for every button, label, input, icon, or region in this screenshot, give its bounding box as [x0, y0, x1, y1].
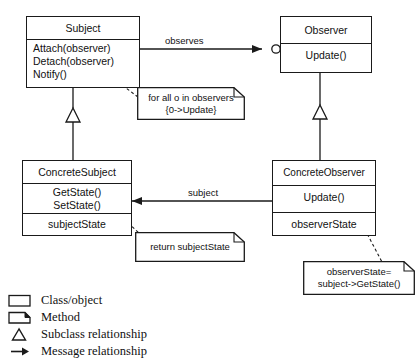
observer-generalization-triangle [313, 105, 327, 119]
operation: SetState() [27, 199, 127, 212]
class-concrete-observer-attributes: observerState [273, 212, 375, 237]
edge-label-subject: subject [186, 187, 220, 198]
attribute: subjectState [27, 218, 127, 231]
class-concrete-observer-operations: Update() [273, 185, 375, 212]
operation: Update() [277, 191, 371, 204]
operation: Update() [285, 49, 367, 62]
message-arrow-icon [8, 344, 34, 359]
note-line: return subjectState [150, 241, 230, 253]
class-concrete-subject-operations: GetState() SetState() [23, 183, 131, 213]
legend-label: Class/object [41, 293, 102, 308]
uml-diagram-canvas: Subject Attach(observer) Detach(observer… [0, 0, 420, 362]
class-subject-operations: Attach(observer) Detach(observer) Notify… [27, 39, 139, 83]
subclass-triangle-icon [8, 327, 34, 342]
note-line: for all o in observers [148, 92, 234, 104]
class-observer[interactable]: Observer Update() [280, 16, 372, 73]
attribute: observerState [277, 218, 371, 231]
class-observer-operations: Update() [281, 43, 371, 64]
legend-item-method: Method [8, 309, 258, 326]
legend-item-subclass: Subclass relationship [8, 326, 258, 343]
class-concrete-subject-attributes: subjectState [23, 213, 131, 237]
class-observer-name: Observer [281, 17, 371, 43]
class-subject[interactable]: Subject Attach(observer) Detach(observer… [26, 16, 140, 88]
legend-label: Subclass relationship [41, 327, 147, 342]
observer-endpoint-circle [272, 45, 280, 53]
class-concrete-observer-name: ConcreteObserver [273, 161, 375, 185]
operation: Notify() [33, 68, 135, 81]
edge-label-observes: observes [163, 35, 206, 46]
note-line: {0->Update} [166, 104, 217, 116]
operation: GetState() [27, 186, 127, 199]
legend-label: Message relationship [41, 344, 147, 359]
legend-label: Method [41, 310, 80, 325]
operation: Attach(observer) [33, 42, 135, 55]
class-concrete-subject[interactable]: ConcreteSubject GetState() SetState() su… [22, 160, 132, 236]
method-icon [8, 310, 34, 325]
legend-item-message: Message relationship [8, 343, 258, 360]
class-concrete-subject-name: ConcreteSubject [23, 161, 131, 183]
class-concrete-observer[interactable]: ConcreteObserver Update() observerState [272, 160, 376, 236]
class-object-icon [8, 293, 34, 308]
legend-item-class-object: Class/object [8, 292, 258, 309]
note-update: observerState= subject->GetState() [303, 261, 415, 295]
note-getstate: return subjectState [135, 232, 245, 262]
legend: Class/object Method Subclass relationshi… [8, 292, 258, 360]
subject-generalization-triangle [66, 108, 80, 122]
class-subject-name: Subject [27, 17, 139, 39]
note-line: observerState= [327, 266, 392, 278]
note-notify: for all o in observers {0->Update} [137, 87, 245, 120]
operation: Detach(observer) [33, 55, 135, 68]
note-line: subject->GetState() [318, 278, 401, 290]
